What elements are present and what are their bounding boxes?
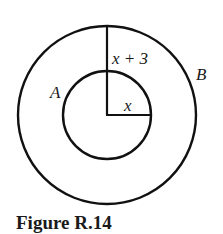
concentric-circles-diagram: x + 3 x A B Figure R.14 <box>0 0 223 234</box>
figure-caption: Figure R.14 <box>16 212 112 233</box>
outer-circle-label: B <box>196 65 207 84</box>
inner-radius-label: x <box>123 96 132 115</box>
inner-circle-label: A <box>49 83 61 102</box>
outer-radius-label: x + 3 <box>111 49 148 68</box>
